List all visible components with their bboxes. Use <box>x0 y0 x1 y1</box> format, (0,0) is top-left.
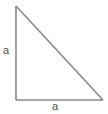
hypotenuse-line <box>16 6 103 100</box>
triangle-figure: a a <box>0 0 108 114</box>
horizontal-leg-label: a <box>52 101 58 112</box>
vertical-leg-label: a <box>3 45 9 56</box>
right-triangle-shape <box>0 0 108 114</box>
